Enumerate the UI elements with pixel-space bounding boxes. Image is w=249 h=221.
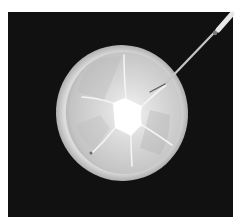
probe-collar: [213, 31, 217, 35]
photo-canvas: [0, 0, 249, 221]
photograph: [0, 0, 249, 221]
disc-speck: [90, 152, 93, 155]
